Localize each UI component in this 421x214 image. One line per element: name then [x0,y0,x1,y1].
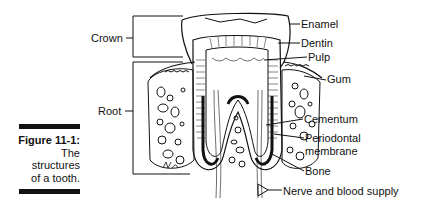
label-periodontal-membrane-line1: Periodontal [305,132,361,144]
gum-left [150,62,195,78]
label-periodontal-membrane-line2: membrane [305,145,358,157]
label-cementum: Cementum [304,113,358,125]
label-enamel: Enamel [301,18,338,30]
tooth-diagram [0,0,421,214]
label-nerve-and-blood-supply: Nerve and blood supply [283,185,399,197]
bone-left [148,69,194,169]
label-pulp: Pulp [308,51,330,63]
label-crown: Crown [91,32,123,44]
nerve-fibers [214,90,262,198]
label-gum: Gum [327,73,351,85]
crown-bracket [133,16,183,57]
dentin-hatching [196,36,278,138]
label-bone: Bone [305,165,331,177]
bone-pores-left [157,87,185,164]
label-root: Root [98,105,121,117]
root-bracket [133,62,190,174]
label-dentin: Dentin [301,37,333,49]
